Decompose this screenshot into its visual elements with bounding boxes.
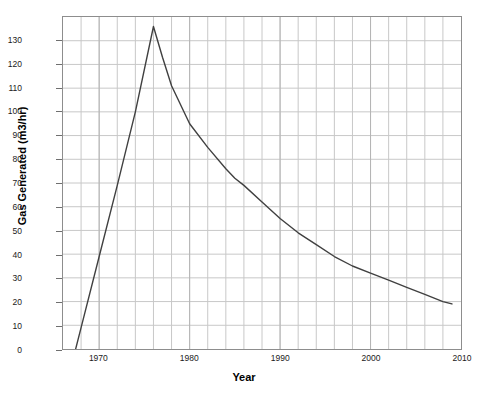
y-tick-label: 30	[0, 273, 22, 283]
y-tick-label: 0	[0, 345, 22, 355]
x-tick-label: 1980	[159, 353, 219, 363]
y-tick-label: 120	[0, 59, 22, 69]
y-tick-label: 20	[0, 297, 22, 307]
x-tick-label: 2010	[432, 353, 488, 363]
y-tick-label: 130	[0, 35, 22, 45]
y-tick-label: 110	[0, 83, 22, 93]
x-tick-label: 1990	[250, 353, 310, 363]
y-tick-label: 80	[0, 154, 22, 164]
y-tick-label: 90	[0, 130, 22, 140]
y-tick-label: 50	[0, 226, 22, 236]
y-axis-title: Gas Generated (m3/hr)	[16, 66, 28, 266]
y-tick-label: 100	[0, 106, 22, 116]
data-series-line	[63, 17, 461, 349]
plot-area	[62, 16, 462, 350]
chart-title	[0, 0, 488, 2]
y-tick-mark	[56, 350, 62, 351]
y-tick-label: 40	[0, 250, 22, 260]
chart-figure: Gas Generated (m3/hr) Year 0102030405060…	[0, 0, 488, 401]
x-tick-label: 1970	[68, 353, 128, 363]
y-tick-label: 10	[0, 321, 22, 331]
y-tick-label: 70	[0, 178, 22, 188]
y-tick-label: 60	[0, 202, 22, 212]
x-axis-title: Year	[0, 371, 488, 383]
x-tick-label: 2000	[341, 353, 401, 363]
